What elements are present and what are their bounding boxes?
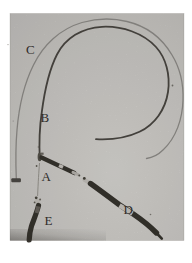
label-a: A — [42, 169, 52, 184]
photo-grain — [10, 14, 184, 241]
label-b: B — [41, 110, 50, 125]
figure-plate: C B A E D — [0, 0, 192, 263]
margin-speck — [7, 44, 8, 45]
page: C B A E D — [0, 0, 192, 263]
photograph: C B A E D — [10, 14, 184, 241]
label-d: D — [124, 202, 133, 217]
label-c: C — [26, 42, 35, 57]
label-e: E — [45, 213, 53, 228]
